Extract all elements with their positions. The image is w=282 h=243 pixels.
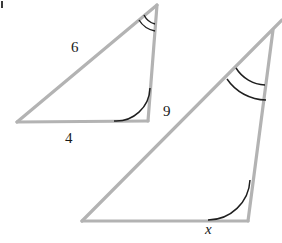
large-triangle-base-label: x	[205, 222, 212, 237]
small-triangle	[17, 5, 157, 122]
large-triangle-right-angle-arc	[208, 180, 250, 220]
small-triangle-base-side	[17, 121, 148, 122]
geometry-canvas	[0, 0, 282, 243]
large-triangle-vertical-side	[248, 30, 273, 221]
small-triangle-base-label: 4	[65, 131, 73, 146]
small-triangle-hypotenuse-label: 6	[71, 40, 79, 55]
large-triangle-apex-angle-arc-inner	[236, 68, 265, 85]
small-triangle-vertical-side	[148, 5, 157, 121]
small-triangle-right-angle-arc	[114, 88, 150, 121]
scan-artifact-top-left	[1, 1, 3, 8]
large-triangle-hypotenuse-label: 9	[163, 104, 171, 119]
similar-triangles-figure: 6 4 9 x	[0, 0, 282, 243]
small-triangle-hypotenuse-side	[17, 5, 157, 122]
large-triangle-apex-angle-arc-outer	[227, 79, 266, 100]
small-triangle-apex-angle-arc-outer	[139, 20, 155, 31]
